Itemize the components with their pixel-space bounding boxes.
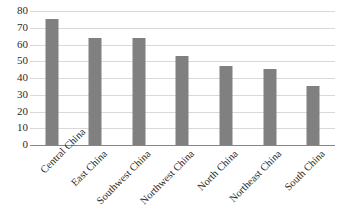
y-axis-tick-label: 70 xyxy=(2,22,28,33)
bar-series xyxy=(30,11,335,145)
y-axis-tick-label: 80 xyxy=(2,5,28,16)
y-axis-tick-label: 30 xyxy=(2,89,28,100)
plot-area xyxy=(30,11,335,145)
bar[interactable] xyxy=(132,38,145,145)
y-axis-tick-label: 20 xyxy=(2,106,28,117)
bar[interactable] xyxy=(220,66,233,145)
bar-slot xyxy=(74,11,118,145)
bar[interactable] xyxy=(176,56,189,145)
x-axis-tick-label-text: East China xyxy=(69,148,109,188)
bar[interactable] xyxy=(307,86,320,145)
bar-slot xyxy=(161,11,205,145)
bar-chart: 80 70 60 50 40 30 20 10 0 Central ChinaE… xyxy=(0,0,344,217)
y-axis-tick-label: 60 xyxy=(2,39,28,50)
bar-slot xyxy=(291,11,335,145)
bar-slot xyxy=(204,11,248,145)
x-axis-tick-label-text: North China xyxy=(195,148,240,193)
x-axis: Central ChinaEast ChinaSouthwest ChinaNo… xyxy=(30,148,335,217)
y-axis-tick-label: 0 xyxy=(2,139,28,150)
bar-slot xyxy=(117,11,161,145)
bar[interactable] xyxy=(263,69,276,145)
y-axis-tick-label: 50 xyxy=(2,55,28,66)
x-axis-tick-label-text: South China xyxy=(282,148,327,193)
y-axis-tick-label: 10 xyxy=(2,122,28,133)
bar[interactable] xyxy=(45,19,58,145)
bar-slot xyxy=(30,11,74,145)
y-axis-tick-label: 40 xyxy=(2,72,28,83)
bar-slot xyxy=(248,11,292,145)
x-axis-tick-label: Central China xyxy=(38,148,65,175)
bar[interactable] xyxy=(89,38,102,145)
